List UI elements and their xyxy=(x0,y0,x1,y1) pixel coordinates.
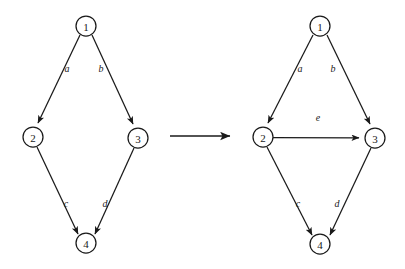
node-4-result[interactable]: 4 xyxy=(310,234,330,254)
node-1-label: 1 xyxy=(83,21,89,33)
node-1-result[interactable]: 1 xyxy=(310,16,330,36)
edge-label-b-result: b xyxy=(331,63,336,74)
node-1[interactable]: 1 xyxy=(76,16,96,36)
node-4[interactable]: 4 xyxy=(76,233,96,253)
edge-b-line xyxy=(92,35,133,124)
edge-label-a-result: a xyxy=(298,63,303,74)
node-3-result[interactable]: 3 xyxy=(365,128,385,148)
edge-a-line xyxy=(38,35,80,123)
edge-a-line-result xyxy=(268,35,313,123)
edge-label-a: a xyxy=(65,63,70,74)
edge-d-line xyxy=(95,148,134,234)
edge-c-line xyxy=(37,147,78,234)
edge-c-line-result xyxy=(267,147,312,235)
node-4-result-label: 4 xyxy=(317,239,323,251)
result-graph-edges xyxy=(267,35,371,235)
graph-transformation-figure: a b c d 1 2 3 4 xyxy=(0,0,405,269)
edge-label-e-result: e xyxy=(316,112,321,123)
edge-label-b: b xyxy=(99,63,104,74)
node-2-label: 2 xyxy=(30,132,36,144)
edge-label-c-result: c xyxy=(296,198,301,209)
node-4-label: 4 xyxy=(83,238,89,250)
node-3[interactable]: 3 xyxy=(128,128,148,148)
edge-label-d-result: d xyxy=(335,198,341,209)
node-2-result[interactable]: 2 xyxy=(253,127,273,147)
node-2-result-label: 2 xyxy=(260,132,266,144)
edge-d-line-result xyxy=(330,148,371,235)
edge-b-line-result xyxy=(327,35,370,124)
node-3-label: 3 xyxy=(135,133,141,145)
result-graph: a b e c d 1 2 3 4 xyxy=(253,16,385,254)
edge-label-c: c xyxy=(64,198,69,209)
node-3-result-label: 3 xyxy=(372,133,378,145)
node-1-result-label: 1 xyxy=(317,21,323,33)
source-graph: a b c d 1 2 3 4 xyxy=(23,16,148,253)
source-graph-edges xyxy=(37,35,134,234)
node-2[interactable]: 2 xyxy=(23,127,43,147)
